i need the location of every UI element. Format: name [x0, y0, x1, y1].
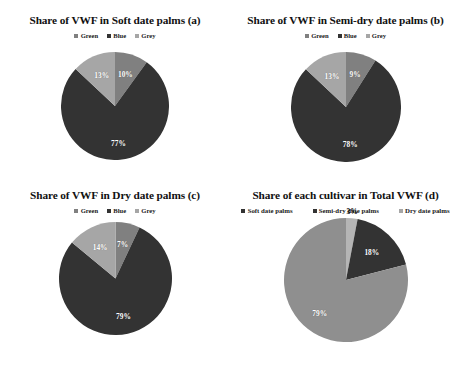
pie-chart-c: 7%79%14% [59, 222, 172, 335]
legend-swatch-icon [135, 209, 139, 213]
pie-slice-label: 77% [111, 138, 126, 147]
legend-swatch-icon [366, 34, 370, 38]
chart-legend-b: Green Blue Grey [230, 32, 461, 39]
pie-slice-label: 13% [94, 71, 109, 80]
legend-item-dry-d: Dry date palms [399, 207, 450, 214]
legend-item-blue-b: Blue [338, 32, 357, 39]
pie-slice-label: 14% [93, 242, 108, 251]
legend-swatch-icon [107, 209, 111, 213]
legend-label: Grey [141, 32, 155, 39]
chart-panel-a: Share of VWF in Soft date palms (a) Gree… [0, 0, 230, 178]
legend-item-green-c: Green [74, 207, 98, 214]
legend-label: Grey [372, 32, 386, 39]
legend-swatch-icon [74, 209, 78, 213]
pie-slice-label: 13% [325, 71, 340, 80]
pie-chart-a: 10%77%13% [61, 52, 169, 160]
chart-panel-d: Share of each cultivar in Total VWF (d) … [230, 178, 461, 365]
chart-title-d: Share of each cultivar in Total VWF (d) [230, 178, 461, 202]
legend-item-blue-c: Blue [107, 207, 126, 214]
pie-slice-label: 3% [346, 206, 357, 215]
pie-slice-label: 79% [116, 311, 131, 320]
pie-slice-label: 7% [117, 240, 128, 249]
legend-item-grey-b: Grey [366, 32, 386, 39]
pie-chart-b: 9%78%13% [291, 52, 401, 162]
pie-wrap-c: 7%79%14% [0, 222, 230, 335]
chart-panel-b: Share of VWF in Semi-dry date palms (b) … [230, 0, 461, 178]
legend-label: Green [81, 207, 98, 214]
legend-swatch-icon [107, 34, 111, 38]
legend-swatch-icon [338, 34, 342, 38]
pie-wrap-a: 10%77%13% [0, 52, 230, 160]
legend-label: Dry date palms [405, 207, 450, 214]
legend-label: Blue [113, 32, 126, 39]
legend-label: Soft date palms [248, 207, 293, 214]
legend-swatch-icon [305, 34, 309, 38]
pie-slice-label: 79% [312, 309, 327, 318]
legend-swatch-icon [135, 34, 139, 38]
chart-title-a: Share of VWF in Soft date palms (a) [0, 0, 230, 27]
legend-label: Green [311, 32, 328, 39]
legend-swatch-icon [241, 209, 245, 213]
chart-legend-a: Green Blue Grey [0, 32, 230, 39]
pie-chart-figure: Share of VWF in Soft date palms (a) Gree… [0, 0, 461, 365]
legend-swatch-icon [74, 34, 78, 38]
legend-label: Blue [344, 32, 357, 39]
legend-item-soft-d: Soft date palms [241, 207, 292, 214]
chart-title-c: Share of VWF in Dry date palms (c) [0, 178, 230, 202]
pie-slice-label: 18% [364, 247, 379, 256]
legend-item-green-b: Green [305, 32, 329, 39]
pie-slice-label: 9% [349, 70, 360, 79]
pie-wrap-d: 3%18%79% [230, 218, 461, 342]
legend-label: Green [81, 32, 98, 39]
chart-title-b: Share of VWF in Semi-dry date palms (b) [230, 0, 461, 27]
legend-label: Blue [113, 207, 126, 214]
legend-item-grey-a: Grey [135, 32, 155, 39]
pie-slice-label: 10% [118, 70, 133, 79]
legend-item-blue-a: Blue [107, 32, 126, 39]
pie-slice-label: 78% [343, 140, 358, 149]
pie-chart-d: 3%18%79% [284, 218, 408, 342]
legend-item-green-a: Green [74, 32, 98, 39]
pie-wrap-b: 9%78%13% [230, 52, 461, 162]
legend-item-grey-c: Grey [135, 207, 155, 214]
legend-swatch-icon [313, 209, 317, 213]
chart-panel-c: Share of VWF in Dry date palms (c) Green… [0, 178, 230, 365]
legend-swatch-icon [399, 209, 403, 213]
legend-label: Grey [141, 207, 155, 214]
chart-legend-c: Green Blue Grey [0, 207, 230, 214]
